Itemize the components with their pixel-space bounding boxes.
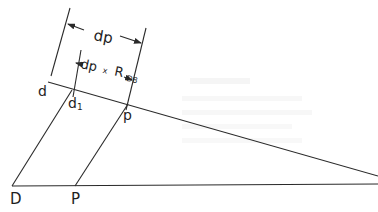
label-D: D xyxy=(10,190,22,208)
line-D-d1 xyxy=(12,90,72,186)
label-R: R xyxy=(113,63,125,80)
label-P: P xyxy=(71,190,80,208)
label-d1-sub: 1 xyxy=(77,102,83,112)
label-dp: dp xyxy=(92,26,114,47)
label-times: x xyxy=(102,66,109,76)
diagram-canvas: dp dp x R D8 d d1 p D P xyxy=(0,0,378,212)
extension-line-p xyxy=(126,28,146,110)
label-p-upper: p xyxy=(123,107,132,123)
label-R-sub: D8 xyxy=(126,74,139,85)
label-dp-inner: dp xyxy=(79,56,98,74)
dim-inner-arrow-left xyxy=(76,63,80,64)
bleed-through-texture xyxy=(182,78,312,143)
line-P-p xyxy=(75,104,128,186)
svg-text:dp x R D8: dp x R D8 xyxy=(79,56,140,85)
baseline xyxy=(12,184,378,186)
label-dp-times-R: dp x R D8 xyxy=(79,56,140,85)
dim-arrow-left xyxy=(68,24,84,30)
extension-line-d xyxy=(51,8,70,76)
dim-arrow-right xyxy=(120,36,141,43)
label-d1: d1 xyxy=(68,95,83,112)
label-d1-base: d xyxy=(68,95,77,111)
label-d: d xyxy=(38,83,47,99)
